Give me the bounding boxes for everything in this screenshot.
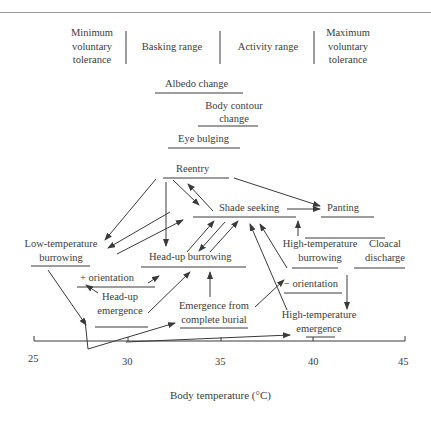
diagram-lines	[0, 0, 431, 429]
